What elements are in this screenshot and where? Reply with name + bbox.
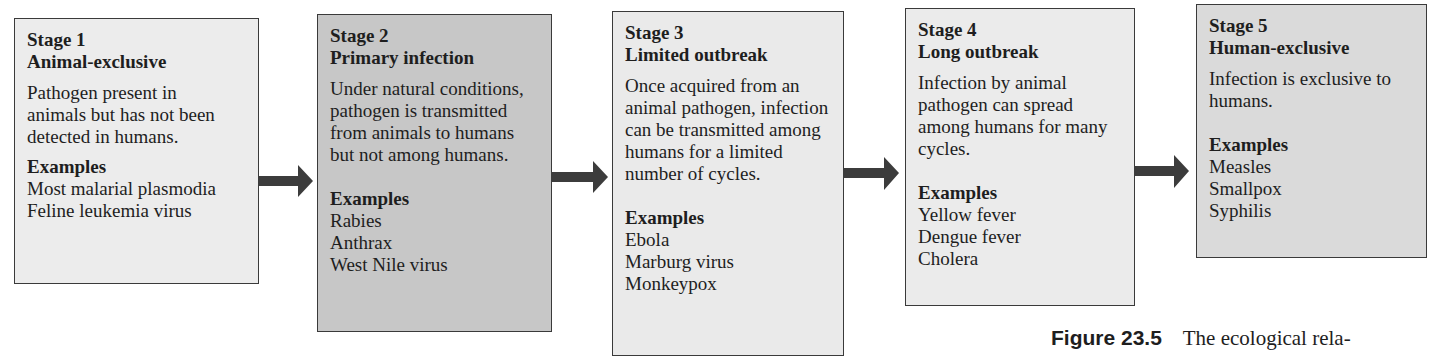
examples-heading: Examples [625,207,831,229]
right-arrow-icon [551,160,609,194]
stage-description: Once acquired from an animal pathogen, i… [625,75,835,185]
figure-label: Figure 23.5 [1051,326,1162,349]
stage-title: Long outbreak [918,41,1122,63]
example-item: Yellow fever [918,204,1122,226]
examples-heading: Examples [27,156,246,178]
stage-3-box: Stage 3 Limited outbreak Once acquired f… [612,11,844,356]
example-item: Anthrax [330,232,539,254]
examples-heading: Examples [330,188,539,210]
example-item: Ebola [625,229,831,251]
example-item: Marburg virus [625,251,831,273]
stage-title: Primary infection [330,47,539,69]
right-arrow-icon [258,164,314,198]
example-item: Rabies [330,210,539,232]
example-item: Smallpox [1209,178,1414,200]
stage-title: Human-exclusive [1209,37,1414,59]
stage-description: Pathogen present in animals but has not … [27,82,217,148]
example-item: Dengue fever [918,226,1122,248]
example-item: Most malarial plasmodia [27,178,246,200]
stage-5-box: Stage 5 Human-exclusive Infection is exc… [1196,4,1427,258]
example-item: Cholera [918,248,1122,270]
figure-caption: Figure 23.5 The ecological rela- [1051,326,1351,350]
stage-title: Limited outbreak [625,44,831,66]
stage-number: Stage 2 [330,25,539,47]
stage-description: Infection by animal pathogen can spread … [918,72,1118,160]
figure-caption-text: The ecological rela- [1183,326,1351,350]
stage-description: Infection is exclusive to humans. [1209,68,1409,112]
right-arrow-icon [1134,154,1190,189]
stage-title: Animal-exclusive [27,51,246,73]
example-item: Feline leukemia virus [27,200,246,222]
stage-number: Stage 5 [1209,15,1414,37]
stage-number: Stage 3 [625,22,831,44]
stage-1-box: Stage 1 Animal-exclusive Pathogen presen… [14,18,259,284]
stage-number: Stage 4 [918,19,1122,41]
examples-heading: Examples [918,182,1122,204]
stage-2-box: Stage 2 Primary infection Under natural … [317,14,552,332]
example-item: Monkeypox [625,273,831,295]
stage-4-box: Stage 4 Long outbreak Infection by anima… [905,8,1135,306]
stage-number: Stage 1 [27,29,246,51]
example-item: West Nile virus [330,254,539,276]
example-item: Measles [1209,156,1414,178]
right-arrow-icon [843,156,900,191]
example-item: Syphilis [1209,200,1414,222]
stage-description: Under natural conditions, pathogen is tr… [330,78,542,166]
examples-heading: Examples [1209,134,1414,156]
